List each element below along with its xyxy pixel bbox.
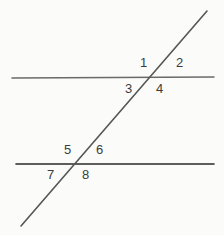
- angle-label-2: 2: [176, 56, 183, 69]
- angle-label-1: 1: [140, 56, 147, 69]
- angle-label-6: 6: [96, 143, 103, 156]
- angle-label-4: 4: [156, 82, 163, 95]
- geometry-figure: 1 2 3 4 5 6 7 8: [0, 0, 224, 235]
- upper-parallel-line: [12, 77, 214, 78]
- transversal-line: [21, 11, 207, 226]
- geometry-canvas: [0, 0, 224, 235]
- angle-label-8: 8: [82, 168, 89, 181]
- angle-label-3: 3: [125, 82, 132, 95]
- angle-label-5: 5: [64, 143, 71, 156]
- angle-label-7: 7: [47, 168, 54, 181]
